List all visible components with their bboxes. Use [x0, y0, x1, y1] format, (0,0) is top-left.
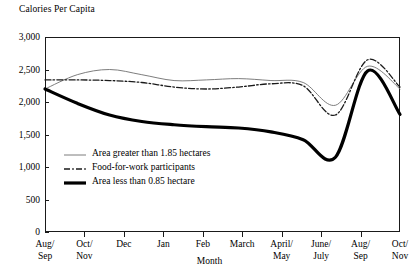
legend-line-icon: [63, 163, 87, 175]
x-tick-line1: March: [230, 239, 255, 249]
legend-swatch: [63, 175, 87, 187]
legend-swatch: [63, 161, 87, 173]
x-tick-label: Jan: [157, 239, 170, 251]
x-tick-line1: Feb: [196, 239, 210, 249]
x-tick-mark: [361, 232, 362, 237]
x-tick-mark: [163, 232, 164, 237]
x-tick-mark: [84, 232, 85, 237]
legend-line-icon: [63, 177, 87, 189]
chart-figure: Calories Per Capita 05001,0001,5002,0002…: [0, 0, 419, 276]
legend-label: Food-for-work participants: [92, 162, 195, 172]
x-tick-line1: April/: [270, 239, 293, 249]
y-tick-mark: [45, 232, 49, 233]
series-line: [45, 59, 400, 115]
x-axis-title: Month: [0, 256, 419, 266]
y-tick-label: 2,000: [0, 97, 40, 107]
legend-line-icon: [63, 149, 87, 161]
series-lines: [45, 37, 400, 232]
legend-item: Area less than 0.85 hectare: [63, 174, 210, 188]
legend-item: Area greater than 1.85 hectares: [63, 146, 210, 160]
x-tick-mark: [203, 232, 204, 237]
chart-legend: Area greater than 1.85 hectaresFood-for-…: [63, 146, 210, 188]
y-tick-label: 1,000: [0, 162, 40, 172]
x-tick-line1: June/: [311, 239, 331, 249]
x-tick-mark: [242, 232, 243, 237]
y-tick-label: 500: [0, 195, 40, 205]
x-tick-line1: Aug/: [36, 239, 55, 249]
x-tick-label: Dec: [116, 239, 131, 251]
legend-label: Area less than 0.85 hectare: [92, 176, 195, 186]
y-tick-label: 0: [0, 227, 40, 237]
y-tick-label: 2,500: [0, 65, 40, 75]
x-tick-mark: [321, 232, 322, 237]
x-tick-label: March: [230, 239, 255, 251]
legend-swatch: [63, 147, 87, 159]
y-tick-label: 1,500: [0, 130, 40, 140]
legend-label: Area greater than 1.85 hectares: [92, 148, 210, 158]
x-tick-line1: Dec: [116, 239, 131, 249]
x-tick-line1: Aug/: [351, 239, 370, 249]
x-tick-line1: Oct/: [392, 239, 408, 249]
x-tick-mark: [282, 232, 283, 237]
legend-item: Food-for-work participants: [63, 160, 210, 174]
x-tick-mark: [124, 232, 125, 237]
x-tick-label: Feb: [196, 239, 210, 251]
chart-title: Calories Per Capita: [19, 4, 95, 14]
x-tick-line1: Jan: [157, 239, 170, 249]
y-tick-label: 3,000: [0, 32, 40, 42]
x-tick-line1: Oct/: [76, 239, 92, 249]
